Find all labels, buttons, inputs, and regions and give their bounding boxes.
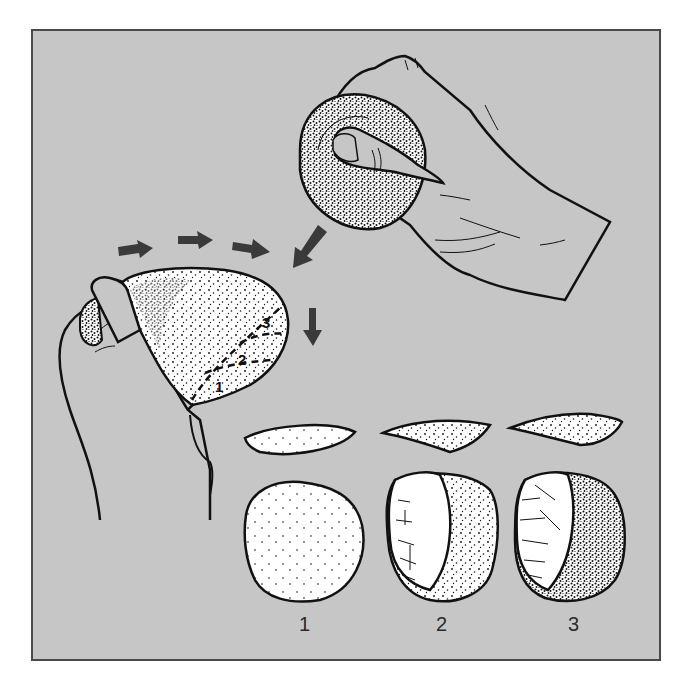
step-label-1: 1 <box>299 613 310 636</box>
flakes-row <box>245 414 622 454</box>
flake-1 <box>245 425 355 454</box>
fracture-label-1: 1 <box>215 378 223 395</box>
right-arrow-icon <box>178 231 213 249</box>
core-3 <box>515 472 625 601</box>
flake-3 <box>510 414 622 445</box>
cores-row <box>245 472 625 601</box>
core-1 <box>245 482 364 602</box>
right-arrow-icon <box>118 240 153 258</box>
step-label-3: 3 <box>568 613 579 636</box>
illustration-canvas: 1 2 3 <box>0 0 688 693</box>
fracture-label-3: 3 <box>262 314 270 331</box>
down-arrow-icon <box>303 308 322 346</box>
strike-arrow-icon <box>293 225 327 268</box>
hammer-hand <box>300 56 610 300</box>
core-2 <box>387 472 498 601</box>
fracture-label-2: 2 <box>238 351 246 368</box>
flake-2 <box>383 421 490 452</box>
right-arrow-icon <box>232 239 270 259</box>
step-label-2: 2 <box>436 613 447 636</box>
